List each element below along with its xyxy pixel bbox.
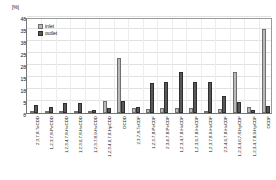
bar-outlet xyxy=(63,103,67,113)
x-axis-tick-label: 1,2,3,4,7,8-HxCDF xyxy=(179,116,184,153)
bar-series-container xyxy=(27,19,271,113)
legend-item-inlet: inlet xyxy=(38,24,57,29)
y-axis-tick-mark xyxy=(24,78,26,79)
x-axis-tick-label: 2,3,4,7,8-PeCDF xyxy=(165,116,170,149)
plot-area xyxy=(26,18,272,114)
gridline-horizontal xyxy=(27,16,271,17)
bar-group xyxy=(128,19,142,113)
x-axis-tick-label: 2,3,7,8-TeCDD xyxy=(35,116,40,145)
x-axis-tick-label: 1,2,3,6,7,8-HxCDF xyxy=(194,116,199,153)
bar-outlet xyxy=(107,108,111,113)
bar-group xyxy=(259,19,273,113)
bar-chart: [%] 0510152025303540 inlet outlet 2,3,7,… xyxy=(0,0,276,180)
bar-outlet xyxy=(251,110,255,113)
bar-group xyxy=(114,19,128,113)
x-axis-tick-label: 2,3,7,8-TeCDF xyxy=(136,116,141,145)
bar-group xyxy=(157,19,171,113)
bar-outlet xyxy=(237,102,241,113)
bar-group xyxy=(56,19,70,113)
bar-group xyxy=(230,19,244,113)
bar-inlet xyxy=(262,29,266,113)
bar-group xyxy=(244,19,258,113)
bar-group xyxy=(99,19,113,113)
bar-outlet xyxy=(208,82,212,113)
x-axis-tick-label: 1,2,3,4,6,7,8-HpCDF xyxy=(237,116,242,157)
y-axis-tick-mark xyxy=(24,54,26,55)
bar-group xyxy=(85,19,99,113)
legend-swatch-outlet xyxy=(38,31,43,36)
bar-group xyxy=(201,19,215,113)
bar-outlet xyxy=(193,82,197,113)
bar-outlet xyxy=(121,101,125,113)
y-axis-tick-mark xyxy=(24,90,26,91)
bar-outlet xyxy=(150,83,154,113)
legend-label-inlet: inlet xyxy=(45,24,54,29)
y-axis-tick-mark xyxy=(24,30,26,31)
bar-group xyxy=(186,19,200,113)
bar-group xyxy=(143,19,157,113)
x-axis-tick-label: 1,2,3,4,7,8,9-HpCDF xyxy=(252,116,257,157)
legend-swatch-inlet xyxy=(38,24,43,29)
bar-outlet xyxy=(92,110,96,113)
y-axis-tick-mark xyxy=(24,102,26,103)
x-axis-tick-label: OCDD xyxy=(122,116,127,129)
legend-label-outlet: outlet xyxy=(45,31,57,36)
bar-outlet xyxy=(266,106,270,113)
x-axis-tick-label: 1,2,3,4,7,8-HxCDD xyxy=(64,116,69,153)
bar-outlet xyxy=(34,105,38,113)
x-axis-tick-label: 1,2,3,7,8-PeCDD xyxy=(49,116,54,149)
y-axis-unit-label: [%] xyxy=(12,4,19,10)
bar-outlet xyxy=(136,107,140,113)
bar-group xyxy=(172,19,186,113)
x-axis-tick-label: 1,2,3,6,7,8-HxCDD xyxy=(78,116,83,153)
x-axis-tick-label: 2,3,4,6,7,8-HxCDF xyxy=(223,116,228,153)
x-axis-tick-label: 1,2,3,4,6,7,8-HpCDD xyxy=(107,116,112,157)
y-axis-tick-mark xyxy=(24,18,26,19)
bar-outlet xyxy=(222,96,226,113)
bar-outlet xyxy=(164,82,168,113)
y-axis-tick-mark xyxy=(24,66,26,67)
chart-legend: inlet outlet xyxy=(38,24,57,36)
y-axis-tick-mark xyxy=(24,42,26,43)
x-axis-tick-label: OCDF xyxy=(266,116,271,128)
bar-outlet xyxy=(78,103,82,113)
legend-item-outlet: outlet xyxy=(38,31,57,36)
y-axis-tick-mark xyxy=(24,114,26,115)
bar-group xyxy=(215,19,229,113)
bar-outlet xyxy=(49,107,53,113)
bar-group xyxy=(70,19,84,113)
x-axis-tick-label: 1,2,3,7,8-PeCDF xyxy=(151,116,156,149)
x-axis-tick-label: 1,2,3,7,8,9-HxCDD xyxy=(93,116,98,153)
x-axis-labels: 2,3,7,8-TeCDD1,2,3,7,8-PeCDD1,2,3,4,7,8-… xyxy=(26,116,272,180)
x-axis-tick-label: 1,2,3,7,8,9-HxCDF xyxy=(208,116,213,153)
bar-outlet xyxy=(179,72,183,113)
